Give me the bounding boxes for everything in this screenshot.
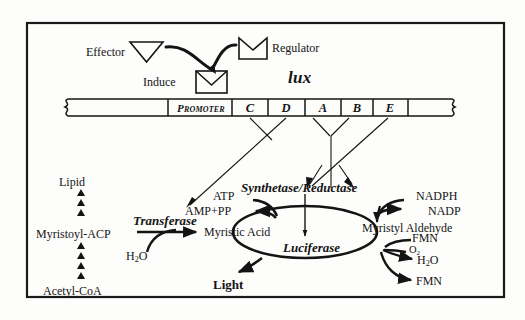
fmn-input-curve [385,240,411,247]
atp-label: ATP [213,190,234,202]
fmn-output-arrow [381,252,411,280]
light-output-arrow [239,258,262,272]
effector-to-induce-arrow [166,47,211,69]
nadph-label: NADPH [416,190,457,202]
myristic-acid-label: Myristic Acid [204,226,270,238]
gene-A-label: A [319,102,327,115]
acetyl-coa-label: Acetyl-CoA [43,285,102,297]
gene-E-label: E [386,102,394,115]
lipid-label: Lipid [59,176,85,188]
regulator-icon [239,38,267,59]
lux-pathway-diagram: Effector Regulator Induce lux Promoter C… [0,0,525,320]
amp-pp-label: AMP+PP [185,205,231,217]
gene-B-label: B [353,102,361,115]
acetylcoa-arrow-chain [77,242,85,279]
promoter-label: Promoter [177,103,225,114]
amp-pp-output-arrow [256,211,276,218]
lipid-arrow-chain [77,189,85,216]
water-in-label: H2O [126,250,147,264]
myristyl-aldehyde-label: Myristyl Aldehyde [362,222,452,234]
synthetase-reductase-label: Synthetase/Reductase [241,181,357,194]
fmn-label: FMN [416,275,442,287]
effector-icon [130,42,163,62]
light-label: Light [213,278,243,291]
diagram-canvas [0,0,525,320]
nadp-label: NADP [428,205,461,217]
myristoyl-acp-label: Myristoyl-ACP [36,228,111,240]
gene-D-label: D [281,102,290,115]
fmnh2-label: FMN [412,232,438,244]
induce-label: Induce [143,76,176,88]
effector-label: Effector [86,46,125,58]
regulator-to-induce-arrow [213,45,236,68]
regulator-label: Regulator [272,42,319,54]
water-out-label: H2O [417,254,438,268]
water-in-curve [147,230,176,252]
gene-C-label: C [246,102,254,115]
operon-name-label: lux [288,69,312,86]
induce-icon-v [196,71,227,85]
operon-bar [65,99,455,116]
luciferase-label: Luciferase [283,241,340,254]
